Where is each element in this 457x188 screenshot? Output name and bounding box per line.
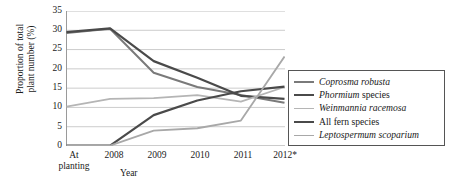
legend-item-phormium-species[interactable]: Phormium species bbox=[293, 88, 440, 101]
legend-label-phormium-species: Phormium species bbox=[319, 90, 390, 100]
y-tick-35: 35 bbox=[40, 6, 62, 16]
legend-item-coprosma-robusta[interactable]: Coprosma robusta bbox=[293, 75, 440, 88]
x-axis-title: Year bbox=[120, 168, 138, 178]
series-line-0 bbox=[67, 29, 285, 103]
legend-label-phormium-genus: Phormium bbox=[319, 89, 360, 100]
legend-item-weinmannia-racemosa[interactable]: Weinmannia racemosa bbox=[293, 102, 440, 115]
chart-figure: Proportion of total plant number (%) 35 … bbox=[0, 0, 457, 188]
legend-item-all-fern-species[interactable]: All fern species bbox=[293, 115, 440, 128]
x-tick-at-planting-line2: planting bbox=[58, 161, 89, 171]
legend-label-all-fern-species: All fern species bbox=[319, 117, 379, 127]
y-axis-title-line2: plant number (%) bbox=[26, 24, 37, 94]
series-line-3 bbox=[67, 87, 285, 146]
legend-label-phormium-suffix: species bbox=[360, 89, 390, 100]
y-tick-5: 5 bbox=[40, 122, 62, 132]
y-tick-25: 25 bbox=[40, 44, 62, 54]
x-tick-at-planting-line1: At bbox=[69, 150, 79, 160]
y-tick-15: 15 bbox=[40, 83, 62, 93]
legend-swatch-weinmannia-racemosa bbox=[294, 108, 314, 109]
legend: Coprosma robusta Phormium species Weinma… bbox=[288, 70, 445, 146]
legend-label-coprosma-robusta: Coprosma robusta bbox=[319, 77, 390, 87]
legend-swatch-all-fern-species bbox=[294, 121, 314, 123]
legend-label-leptospermum-scoparium: Leptospermum scoparium bbox=[319, 130, 419, 140]
x-tick-2012: 2012* bbox=[260, 150, 310, 161]
y-tick-20: 20 bbox=[40, 64, 62, 74]
legend-swatch-coprosma-robusta bbox=[294, 81, 314, 83]
y-axis-title: Proportion of total plant number (%) bbox=[11, 0, 41, 129]
y-tick-30: 30 bbox=[40, 25, 62, 35]
y-axis-title-line1: Proportion of total bbox=[15, 24, 26, 94]
plot-area bbox=[66, 11, 285, 146]
y-tick-10: 10 bbox=[40, 102, 62, 112]
legend-label-weinmannia-racemosa: Weinmannia racemosa bbox=[319, 103, 406, 113]
legend-swatch-phormium-species bbox=[294, 94, 314, 96]
legend-swatch-leptospermum-scoparium bbox=[294, 135, 314, 136]
legend-item-leptospermum-scoparium[interactable]: Leptospermum scoparium bbox=[293, 129, 440, 142]
series-canvas bbox=[66, 11, 285, 146]
